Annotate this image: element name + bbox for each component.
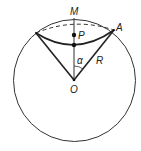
label-O: O: [70, 84, 78, 95]
point-arc-mid: [72, 43, 76, 47]
label-M: M: [70, 6, 79, 17]
spherical-cap-diagram: M P A R α O: [0, 0, 141, 151]
point-O: [73, 79, 76, 82]
point-A: [113, 29, 115, 31]
label-P: P: [78, 30, 85, 41]
label-R: R: [96, 55, 103, 66]
point-left: [35, 32, 37, 34]
radius-left: [36, 33, 74, 80]
angle-alpha-arc: [74, 66, 83, 69]
label-alpha: α: [77, 55, 83, 66]
solid-arc: [36, 30, 114, 45]
label-A: A: [115, 22, 123, 33]
point-P: [72, 33, 76, 37]
